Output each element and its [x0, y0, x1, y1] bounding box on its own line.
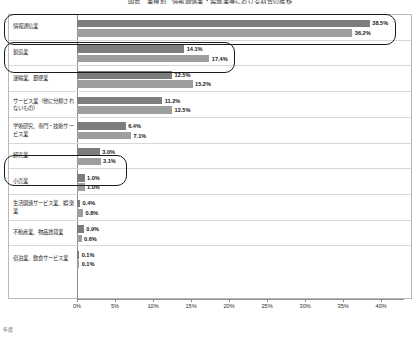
- x-tick-label: 10%: [147, 303, 158, 309]
- chart-row: 生活関連サービス業、娯楽業0.4%0.8%: [9, 195, 411, 221]
- bar: [77, 132, 131, 140]
- x-tick-mark: [343, 299, 344, 302]
- bar-value-label: 17.4%: [209, 56, 227, 62]
- bar-slot: 12.5%: [77, 71, 411, 79]
- bar-value-label: 0.8%: [83, 210, 98, 216]
- bar-slot: 0.1%: [77, 260, 411, 268]
- bar-group: 1.0%1.0%: [77, 169, 411, 194]
- bar: [77, 45, 184, 53]
- bar: [77, 29, 352, 37]
- bar-value-label: 12.5%: [172, 72, 190, 78]
- bar-slot: 6.4%: [77, 122, 411, 130]
- bar: [77, 158, 101, 166]
- category-label: 卸売業: [13, 152, 77, 159]
- bar: [77, 225, 84, 233]
- bar: [77, 97, 162, 105]
- bar-slot: 0.9%: [77, 225, 411, 233]
- x-tick-mark: [229, 299, 230, 302]
- bar: [77, 148, 100, 156]
- bar-group: 0.9%0.6%: [77, 221, 411, 246]
- bar: [77, 55, 209, 63]
- x-tick-label: 25%: [262, 303, 273, 309]
- x-tick-label: 5%: [111, 303, 119, 309]
- bar-value-label: 0.1%: [79, 252, 94, 258]
- chart-row: 運輸業、郵便業12.5%15.2%: [9, 66, 411, 92]
- x-tick-label: 30%: [300, 303, 311, 309]
- category-label: 製造業: [13, 49, 77, 56]
- chart-title: 図表 業種別 情報通信業・製造業等における割合の推移: [0, 0, 420, 5]
- bar-slot: 0.8%: [77, 209, 411, 217]
- bar-group: 12.5%15.2%: [77, 66, 411, 91]
- category-label: 運輸業、郵便業: [13, 75, 77, 82]
- bar-chart: 図表 業種別 情報通信業・製造業等における割合の推移 情報通信業38.5%36.…: [0, 0, 420, 339]
- bar-value-label: 11.2%: [162, 98, 180, 104]
- bar: [77, 71, 172, 79]
- x-tick-label: 0%: [73, 303, 81, 309]
- bar-group: 38.5%36.2%: [77, 15, 411, 40]
- bar-value-label: 1.0%: [85, 184, 100, 190]
- category-label: 小売業: [13, 178, 77, 185]
- bar-slot: 38.5%: [77, 20, 411, 28]
- bar-value-label: 3.1%: [101, 158, 116, 164]
- bar-value-label: 12.5%: [172, 107, 190, 113]
- category-label: 生活関連サービス業、娯楽業: [13, 200, 77, 215]
- bar-slot: 17.4%: [77, 55, 411, 63]
- bar: [77, 20, 370, 28]
- bar-group: 0.1%0.1%: [77, 246, 411, 272]
- bar-value-label: 38.5%: [370, 20, 388, 26]
- x-tick-mark: [115, 299, 116, 302]
- x-tick-mark: [77, 299, 78, 302]
- chart-row: サービス業（他に分類されないもの）11.2%12.5%: [9, 92, 411, 118]
- bar-slot: 1.0%: [77, 183, 411, 191]
- bar-value-label: 6.4%: [126, 123, 141, 129]
- x-tick-label: 40%: [376, 303, 387, 309]
- bar-value-label: 0.4%: [80, 200, 95, 206]
- bar-group: 11.2%12.5%: [77, 92, 411, 117]
- bar-value-label: 0.1%: [79, 261, 94, 267]
- bar-value-label: 0.6%: [82, 236, 97, 242]
- bar-slot: 12.5%: [77, 106, 411, 114]
- bar-value-label: 7.1%: [131, 133, 146, 139]
- x-tick-label: 35%: [338, 303, 349, 309]
- bar-slot: 15.2%: [77, 80, 411, 88]
- bar-group: 3.0%3.1%: [77, 144, 411, 169]
- bar-group: 0.4%0.8%: [77, 195, 411, 220]
- bar: [77, 106, 172, 114]
- bar-value-label: 3.0%: [100, 149, 115, 155]
- bar-group: 14.1%17.4%: [77, 41, 411, 66]
- bar-slot: 0.6%: [77, 235, 411, 243]
- bar-slot: 3.0%: [77, 148, 411, 156]
- bar-group: 6.4%7.1%: [77, 118, 411, 143]
- x-tick-mark: [381, 299, 382, 302]
- x-tick-mark: [191, 299, 192, 302]
- chart-row: 製造業14.1%17.4%: [9, 41, 411, 67]
- bar-value-label: 14.1%: [184, 46, 202, 52]
- bar-slot: 14.1%: [77, 45, 411, 53]
- bar-slot: 0.1%: [77, 251, 411, 259]
- chart-row: 情報通信業38.5%36.2%: [9, 15, 411, 41]
- x-tick-mark: [267, 299, 268, 302]
- x-tick-mark: [153, 299, 154, 302]
- category-label: 学術研究、専門・技術サービス業: [13, 123, 77, 138]
- category-label: 宿泊業、飲食サービス業: [13, 256, 77, 263]
- bar-slot: 1.0%: [77, 174, 411, 182]
- category-label: サービス業（他に分類されないもの）: [13, 97, 77, 112]
- chart-row: 小売業1.0%1.0%: [9, 169, 411, 195]
- x-axis-ticks: 0%5%10%15%20%25%30%35%40%: [77, 299, 404, 315]
- bar-slot: 3.1%: [77, 158, 411, 166]
- chart-row: 学術研究、専門・技術サービス業6.4%7.1%: [9, 118, 411, 144]
- bar-slot: 0.4%: [77, 200, 411, 208]
- x-tick-label: 20%: [223, 303, 234, 309]
- bar: [77, 183, 85, 191]
- chart-row: 卸売業3.0%3.1%: [9, 144, 411, 170]
- bar-slot: 11.2%: [77, 97, 411, 105]
- chart-rows: 情報通信業38.5%36.2%製造業14.1%17.4%運輸業、郵便業12.5%…: [9, 15, 411, 298]
- bar-value-label: 1.0%: [85, 175, 100, 181]
- chart-row: 宿泊業、飲食サービス業0.1%0.1%: [9, 246, 411, 272]
- bar: [77, 80, 193, 88]
- bar: [77, 122, 126, 130]
- x-tick-label: 15%: [185, 303, 196, 309]
- x-tick-mark: [305, 299, 306, 302]
- bar-slot: 7.1%: [77, 132, 411, 140]
- bar-value-label: 36.2%: [352, 30, 370, 36]
